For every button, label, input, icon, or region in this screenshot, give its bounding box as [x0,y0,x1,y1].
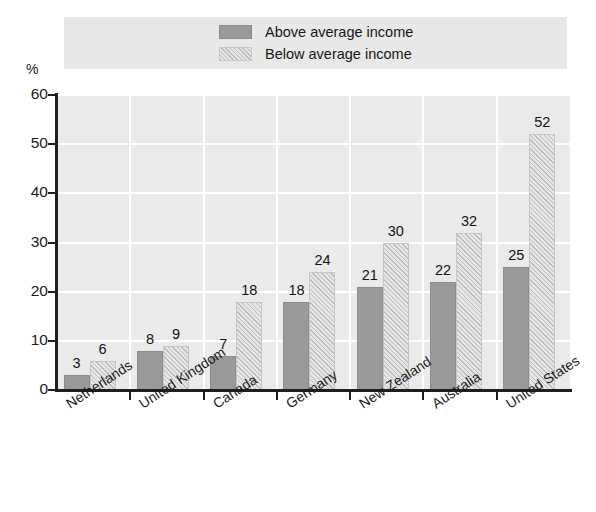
y-axis-tick-label: 10 [14,331,48,349]
bar-group: 89 [130,95,203,390]
bar-above-average-income[interactable]: 21 [357,287,383,390]
bar-value-label: 3 [73,355,81,371]
bar-group: 36 [57,95,130,390]
bar-group: 2232 [423,95,496,390]
bar-value-label: 24 [314,252,330,268]
bar-above-average-income[interactable]: 18 [283,302,309,391]
bar-value-label: 22 [435,262,451,278]
bar-group: 1824 [277,95,350,390]
y-axis-tick [48,389,57,391]
y-axis-tick-label: 60 [14,85,48,103]
bar-value-label: 18 [241,282,257,298]
y-axis-tick-label: 30 [14,233,48,251]
x-axis-tick [349,392,351,400]
chart-plot: 36897181824213022322552 0102030405060Net… [0,0,596,512]
y-axis-tick [48,94,57,96]
bar-value-label: 25 [508,247,524,263]
y-axis-tick [48,192,57,194]
plot-area: 36897181824213022322552 [57,95,570,390]
bar-value-label: 52 [534,114,550,130]
bar-value-label: 30 [388,223,404,239]
x-axis-tick [203,392,205,400]
y-axis-tick [48,143,57,145]
y-axis-tick [48,340,57,342]
bar-value-label: 9 [172,326,180,342]
y-axis-tick [48,242,57,244]
y-axis-tick-label: 40 [14,183,48,201]
x-axis-tick [129,392,131,400]
bar-below-average-income[interactable]: 52 [529,134,555,390]
bar-value-label: 21 [362,267,378,283]
bar-group: 2130 [350,95,423,390]
bar-above-average-income[interactable]: 22 [430,282,456,390]
bar-below-average-income[interactable]: 32 [456,233,482,390]
y-axis-tick [48,291,57,293]
bar-group: 2552 [497,95,570,390]
y-axis-tick-label: 50 [14,134,48,152]
bar-above-average-income[interactable]: 25 [503,267,529,390]
bar-value-label: 8 [146,331,154,347]
x-axis-tick [422,392,424,400]
bar-value-label: 32 [461,213,477,229]
y-axis-tick-label: 0 [14,380,48,398]
x-axis-tick [276,392,278,400]
y-axis-tick-label: 20 [14,282,48,300]
x-axis-tick [496,392,498,400]
bar-value-label: 6 [99,341,107,357]
bar-value-label: 18 [288,282,304,298]
